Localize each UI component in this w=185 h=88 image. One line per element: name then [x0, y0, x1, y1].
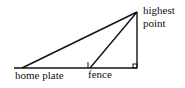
home-plate-to-highest-point-line [22, 12, 137, 68]
highest-label-line2: point [143, 18, 166, 29]
home-plate-label: home plate [15, 70, 64, 81]
highest-label-line1: highest [143, 5, 175, 16]
fence-to-highest-point-line [90, 12, 137, 68]
fence-label: fence [88, 69, 112, 80]
